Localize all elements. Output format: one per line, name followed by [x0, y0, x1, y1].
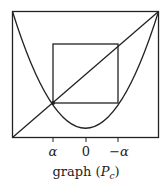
diagonal-line [13, 12, 159, 138]
tick-label-alpha: α [49, 144, 58, 159]
caption: graph (Pc) [52, 164, 119, 181]
cobweb-diagram: α 0 −α graph (Pc) [0, 0, 168, 186]
fixed-point-marker [51, 101, 55, 105]
tick-label-neg-alpha: −α [109, 144, 129, 159]
parabola-curve [13, 12, 159, 129]
tick-label-zero: 0 [82, 144, 90, 159]
